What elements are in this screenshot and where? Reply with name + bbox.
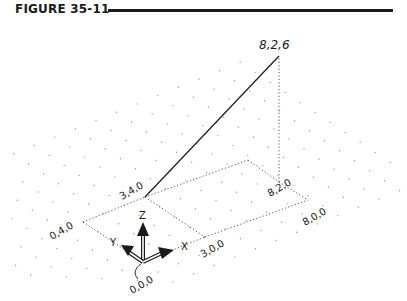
grid-dot (169, 235, 170, 236)
grid-dot (92, 250, 93, 251)
grid-dot (114, 176, 115, 177)
grid-dot (73, 193, 74, 194)
grid-dot (264, 100, 265, 101)
grid-dot (165, 188, 166, 189)
grid-dot (390, 162, 391, 163)
grid-dot (41, 238, 42, 239)
grid-dot (217, 135, 218, 136)
grid-dot (223, 117, 224, 118)
z-axis-label: Z (139, 210, 146, 221)
grid-dot (210, 218, 211, 219)
grid-dot (63, 165, 64, 166)
grid-dot (11, 218, 12, 219)
grid-dot (360, 142, 361, 143)
label-0-0-0: 0,0,0 (128, 273, 156, 295)
grid-dot (122, 270, 123, 271)
grid-dot (185, 180, 186, 181)
grid-dot (195, 208, 196, 209)
grid-dot (232, 145, 233, 146)
grid-dot (296, 232, 297, 233)
grid-dot (95, 120, 96, 121)
grid-dot (324, 140, 325, 141)
grid-dot (140, 150, 141, 151)
grid-dot (86, 268, 87, 269)
grid-dot (268, 147, 269, 148)
grid-dot (17, 200, 18, 201)
grid-dot (69, 146, 70, 147)
grid-dot (277, 175, 278, 176)
grid-dot (36, 256, 37, 257)
grid-dot (178, 263, 179, 264)
grid-dot (307, 195, 308, 196)
grid-dot (273, 128, 274, 129)
grid-dot (167, 123, 168, 124)
grid-dot (180, 198, 181, 199)
grid-dot (157, 95, 158, 96)
dotted-edge-620-820 (248, 160, 279, 182)
grid-dot (213, 88, 214, 89)
grid-dot (221, 182, 222, 183)
label-0-4-0: 0,4,0 (48, 219, 76, 241)
grid-dot (253, 137, 254, 138)
grid-dot (172, 105, 173, 106)
grid-dot (275, 240, 276, 241)
grid-dot (378, 198, 379, 199)
grid-dot (26, 228, 27, 229)
grid-dot (242, 173, 243, 174)
grid-dot (270, 82, 271, 83)
label-8-0-0: 8,0,0 (301, 205, 329, 227)
grid-dot (249, 90, 250, 91)
grid-dot (228, 98, 229, 99)
grid-dot (90, 138, 91, 139)
grid-dot (187, 115, 188, 116)
grid-dot (245, 220, 246, 221)
grid-dot (260, 230, 261, 231)
grid-dot (238, 127, 239, 128)
grid-dot (133, 233, 134, 234)
grid-dot (30, 275, 31, 276)
origin-marker-icon (135, 264, 141, 279)
grid-dot (333, 168, 334, 169)
grid-dot (302, 213, 303, 214)
grid-dot (330, 122, 331, 123)
grid-dot (214, 265, 215, 266)
grid-dot (54, 136, 55, 137)
grid-dot (251, 202, 252, 203)
grid-dot (313, 177, 314, 178)
grid-dot (281, 222, 282, 223)
grid-dot (266, 212, 267, 213)
grid-dot (137, 103, 138, 104)
dotted-edge-340-620 (145, 160, 248, 197)
grid-dot (176, 152, 177, 153)
isometric-drawing: 8,2,6 3,4,0 8,2,0 8,0,0 3,0,0 0,4,0 0,0,… (0, 0, 407, 301)
grid-dot (339, 150, 340, 151)
grid-dot (363, 188, 364, 189)
grid-dot (101, 278, 102, 279)
grid-dot (215, 200, 216, 201)
grid-dot (28, 163, 29, 164)
grid-dot (125, 140, 126, 141)
grid-dot (118, 223, 119, 224)
grid-dot (309, 130, 310, 131)
grid-dot (240, 62, 241, 63)
grid-dot (75, 128, 76, 129)
grid-dot (230, 210, 231, 211)
x-axis-label: X (181, 241, 188, 252)
grid-dot (354, 160, 355, 161)
grid-dot (66, 276, 67, 277)
grid-dot (152, 113, 153, 114)
y-axis-label: Y (109, 237, 117, 248)
grid-dot (148, 243, 149, 244)
grid-dot (67, 211, 68, 212)
grid-dot (51, 266, 52, 267)
grid-dot (206, 172, 207, 173)
grid-dot (300, 102, 301, 103)
grid-dot (288, 138, 289, 139)
grid-dot (32, 210, 33, 211)
grid-dot (15, 265, 16, 266)
grid-dot (21, 246, 22, 247)
grid-dot (84, 156, 85, 157)
grid-dot (384, 180, 385, 181)
grid-dot (109, 195, 110, 196)
grid-dot (182, 133, 183, 134)
